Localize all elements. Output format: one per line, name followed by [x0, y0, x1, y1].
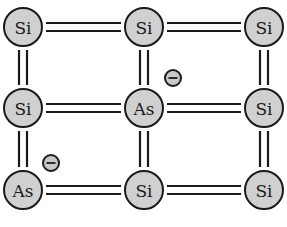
atom-as: As	[125, 89, 163, 127]
atom-si: Si	[125, 171, 163, 209]
bond-double	[19, 50, 27, 85]
atom-si: Si	[245, 8, 283, 46]
bond-double	[260, 131, 268, 167]
atom-label: Si	[14, 99, 32, 119]
electron-icon	[165, 70, 181, 86]
atom-label: Si	[135, 181, 153, 201]
atom-label: Si	[255, 18, 273, 38]
bond-double	[140, 131, 148, 167]
electrons-layer	[43, 70, 181, 171]
bond-double	[167, 104, 241, 112]
atoms-layer: SiSiSiSiAsSiAsSiSi	[4, 8, 283, 209]
atom-as: As	[4, 171, 42, 209]
bond-double	[46, 104, 121, 112]
atom-label: Si	[14, 18, 32, 38]
atom-label: As	[132, 99, 154, 119]
doped-silicon-lattice-diagram: SiSiSiSiAsSiAsSiSi	[0, 0, 287, 227]
bond-double	[46, 186, 121, 194]
atom-si: Si	[245, 171, 283, 209]
atom-label: Si	[255, 99, 273, 119]
bond-double	[167, 186, 241, 194]
bond-double	[46, 23, 121, 31]
atom-si: Si	[245, 89, 283, 127]
atom-label: Si	[255, 181, 273, 201]
electron-icon	[43, 155, 59, 171]
bond-double	[140, 50, 148, 85]
atom-si: Si	[125, 8, 163, 46]
atom-si: Si	[4, 8, 42, 46]
atom-label: As	[11, 181, 33, 201]
bond-double	[19, 131, 27, 167]
bond-double	[167, 23, 241, 31]
atom-si: Si	[4, 89, 42, 127]
bond-double	[260, 50, 268, 85]
atom-label: Si	[135, 18, 153, 38]
